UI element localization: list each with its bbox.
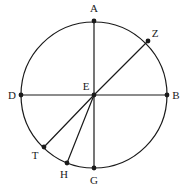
point-label-h: H bbox=[60, 169, 68, 180]
radius-e-z bbox=[94, 41, 148, 95]
point-label-z: Z bbox=[152, 28, 159, 39]
point-label-d: D bbox=[8, 90, 16, 101]
point-marker-t bbox=[42, 145, 47, 150]
point-marker-z bbox=[146, 39, 151, 44]
radius-e-t bbox=[44, 95, 94, 147]
point-marker-e bbox=[92, 93, 97, 98]
radius-e-h bbox=[67, 95, 94, 163]
point-marker-a bbox=[92, 19, 97, 24]
point-marker-b bbox=[165, 93, 170, 98]
point-label-e: E bbox=[83, 81, 90, 92]
geometry-figure: AZBDETHG bbox=[0, 0, 187, 188]
point-label-g: G bbox=[90, 175, 98, 186]
point-marker-h bbox=[65, 161, 70, 166]
point-marker-d bbox=[19, 93, 24, 98]
figure-canvas bbox=[0, 0, 187, 188]
point-label-a: A bbox=[90, 3, 98, 14]
point-marker-g bbox=[92, 166, 97, 171]
point-label-b: B bbox=[172, 90, 179, 101]
point-label-t: T bbox=[32, 150, 39, 161]
